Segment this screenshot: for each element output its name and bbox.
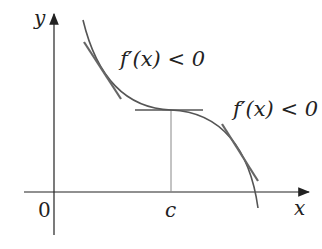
x-axis-label: x — [294, 196, 305, 220]
y-axis-label: y — [34, 6, 45, 30]
annotation-left: f′(x) < 0 — [120, 47, 205, 71]
c-label: c — [165, 198, 176, 222]
origin-label: 0 — [38, 198, 51, 222]
annotation-right: f′(x) < 0 — [233, 97, 318, 121]
tangent-right — [222, 124, 258, 181]
tangent-left — [84, 42, 121, 99]
